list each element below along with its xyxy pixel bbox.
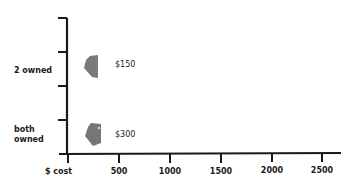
x-tick-label: 1000 — [159, 167, 181, 177]
y-label-2-owned: 2 owned — [14, 66, 52, 76]
x-tick-label: 2500 — [311, 166, 333, 176]
point-value-label: $150 — [115, 60, 135, 70]
marker-highlight — [98, 127, 100, 129]
chart-axes — [0, 0, 354, 191]
x-tick-label: 2000 — [261, 166, 283, 176]
x-tick-label: 1500 — [210, 167, 232, 177]
x-axis-title: $ cost — [45, 167, 72, 177]
data-point-marker — [85, 123, 101, 146]
cost-chart: 2 owned both owned $150 $300 $ cost 500 … — [0, 0, 354, 191]
y-label-both-line2: owned — [14, 135, 44, 145]
x-axis-line — [59, 153, 341, 154]
x-tick-label: 500 — [111, 167, 128, 177]
y-label-both-line1: both — [14, 125, 35, 135]
point-value-label: $300 — [115, 130, 135, 140]
data-point-marker — [84, 55, 98, 78]
